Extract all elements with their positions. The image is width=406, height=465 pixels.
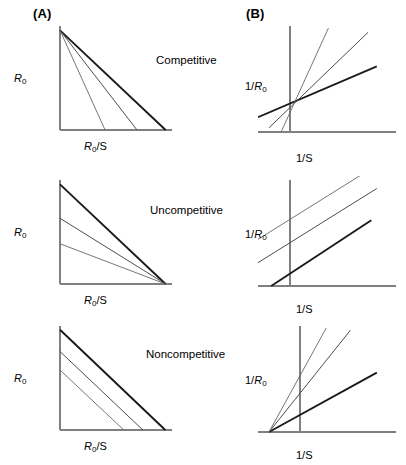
xlabel-noncompetitive-b: 1/S	[296, 449, 313, 461]
panel-a-header: (A)	[33, 6, 52, 21]
plot-noncompetitive-a-svg	[46, 322, 176, 442]
ylabel-competitive-a: R0	[14, 72, 26, 84]
plot-noncompetitive-b-svg	[258, 322, 398, 442]
line-no-inhibitor	[271, 220, 371, 286]
data-lines	[60, 30, 166, 130]
plot-competitive-b	[258, 22, 398, 142]
plot-competitive-a-svg	[46, 22, 176, 142]
xlabel-uncompetitive-b: 1/S	[296, 303, 313, 315]
data-lines	[258, 176, 377, 286]
data-lines	[258, 28, 377, 132]
ylabel-uncompetitive-b: 1/R0	[245, 228, 267, 240]
plot-uncompetitive-b	[258, 176, 398, 296]
plot-uncompetitive-a-svg	[46, 176, 176, 296]
xlabel-noncompetitive-a: R0/S	[84, 440, 107, 452]
ylabel-noncompetitive-a: R0	[14, 372, 26, 384]
data-lines	[60, 330, 165, 430]
line-no-inhibitor	[60, 184, 166, 284]
plot-noncompetitive-a	[46, 322, 176, 442]
plot-uncompetitive-b-svg	[258, 176, 398, 296]
plot-competitive-b-svg	[258, 22, 398, 142]
ylabel-uncompetitive-a: R0	[14, 226, 26, 238]
ylabel-noncompetitive-b: 1/R0	[245, 374, 267, 386]
data-lines	[269, 328, 377, 432]
axes	[60, 180, 172, 284]
kinetics-figure: (A) (B) Competitive Uncompetitive Noncom…	[0, 0, 406, 465]
xlabel-competitive-a: R0/S	[84, 140, 107, 152]
line-no-inhibitor	[60, 330, 165, 430]
panel-b-header: (B)	[246, 6, 265, 21]
line-inhibitor-high	[281, 28, 328, 132]
line-inhibitor-low	[60, 352, 143, 430]
line-inhibitor-high	[60, 370, 124, 430]
line-inhibitor-high	[258, 176, 377, 239]
axes	[258, 326, 396, 432]
line-inhibitor-high	[60, 244, 166, 284]
line-inhibitor-low	[60, 218, 166, 284]
xlabel-uncompetitive-a: R0/S	[84, 294, 107, 306]
data-lines	[60, 184, 166, 284]
plot-noncompetitive-b	[258, 322, 398, 442]
ylabel-competitive-b: 1/R0	[245, 80, 267, 92]
line-no-inhibitor	[60, 30, 166, 130]
axes	[60, 26, 172, 130]
line-inhibitor-low	[269, 32, 368, 127]
line-inhibitor-low	[258, 188, 377, 262]
line-no-inhibitor	[258, 66, 377, 117]
plot-uncompetitive-a	[46, 176, 176, 296]
axes	[60, 326, 172, 430]
xlabel-competitive-b: 1/S	[296, 152, 313, 164]
axes	[258, 26, 396, 132]
plot-competitive-a	[46, 22, 176, 142]
line-inhibitor-low	[269, 330, 350, 432]
